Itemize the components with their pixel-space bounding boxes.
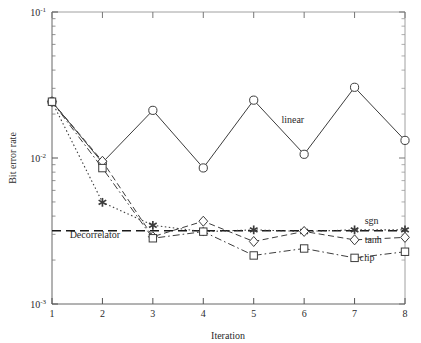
- y-axis-title: Bit error rate: [7, 132, 18, 184]
- data-point-square: [149, 235, 156, 242]
- annotation-sgn: sgn: [365, 215, 379, 226]
- data-point-circle: [149, 106, 157, 114]
- x-tick-label: 1: [50, 308, 55, 319]
- x-tick-label: 5: [251, 308, 256, 319]
- x-axis-title: Iteration: [211, 330, 245, 341]
- data-point-circle: [300, 150, 308, 158]
- x-tick-label: 7: [352, 308, 357, 319]
- data-point-circle: [250, 96, 258, 104]
- x-tick-label: 4: [201, 308, 206, 319]
- x-tick-label: 3: [150, 308, 155, 319]
- data-point-square: [200, 228, 207, 235]
- annotation-clip: clip: [360, 252, 375, 263]
- annotation-tanh: tanh: [365, 234, 382, 245]
- data-point-square: [99, 164, 106, 171]
- data-point-circle: [199, 164, 207, 172]
- data-point-square: [48, 98, 55, 105]
- data-point-square: [401, 248, 408, 255]
- x-tick-label: 8: [403, 308, 408, 319]
- data-point-square: [351, 254, 358, 261]
- data-point-square: [300, 245, 307, 252]
- chart-background: [0, 0, 421, 343]
- data-point-circle: [350, 83, 358, 91]
- annotation-linear: linear: [281, 114, 304, 125]
- annotation-decorrelator: Decorrelator: [70, 229, 121, 240]
- data-point-circle: [401, 136, 409, 144]
- x-tick-label: 6: [302, 308, 307, 319]
- bit-error-rate-line-chart: 10-110-210-3 12345678 linearsgntanhclipD…: [0, 0, 421, 343]
- x-tick-label: 2: [100, 308, 105, 319]
- data-point-square: [250, 252, 257, 259]
- chart-figure: 10-110-210-3 12345678 linearsgntanhclipD…: [0, 0, 421, 343]
